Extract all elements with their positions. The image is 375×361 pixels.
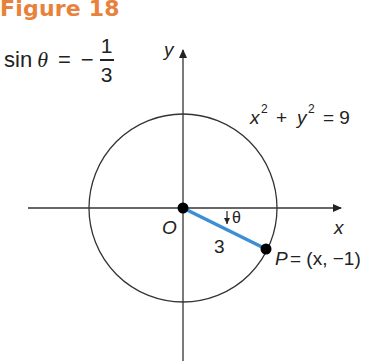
angle-label: θ bbox=[232, 209, 241, 226]
point-p bbox=[261, 244, 272, 255]
eq-y: y bbox=[295, 107, 308, 128]
circle-equation: x 2 + y 2 = 9 bbox=[249, 102, 350, 128]
eq-rhs: = 9 bbox=[323, 107, 350, 128]
point-p-coords: = (x, −1) bbox=[290, 248, 361, 269]
point-p-name: P bbox=[275, 248, 288, 269]
x-axis-label: x bbox=[333, 217, 345, 238]
eq-x: x bbox=[249, 107, 261, 128]
origin-point bbox=[178, 203, 189, 214]
origin-label: O bbox=[162, 217, 177, 238]
eq-plus: + bbox=[276, 107, 287, 128]
y-axis-label: y bbox=[162, 39, 175, 60]
point-p-label: P = (x, −1) bbox=[275, 248, 361, 269]
eq-y-exp: 2 bbox=[308, 102, 315, 116]
eq-x-exp: 2 bbox=[261, 102, 268, 116]
radius-label: 3 bbox=[214, 236, 225, 257]
unit-circle-diagram: y x O x 2 + y 2 = 9 θ 3 P = (x, −1) bbox=[0, 0, 375, 361]
